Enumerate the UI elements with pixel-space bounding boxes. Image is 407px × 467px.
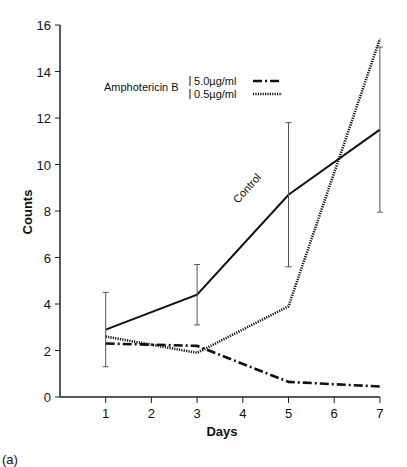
legend-title: Amphotericin B	[104, 81, 179, 93]
y-tick-label: 0	[44, 390, 51, 405]
x-tick-label: 4	[239, 406, 246, 421]
x-axis-label: Days	[206, 424, 237, 439]
x-tick-label: 7	[376, 406, 383, 421]
line-chart: 02468101214161234567 Days Counts (a) Amp…	[0, 0, 407, 467]
y-tick-label: 8	[44, 204, 51, 219]
y-axis-label: Counts	[20, 190, 35, 235]
y-tick-label: 16	[37, 18, 51, 33]
control-annotation: Control	[231, 171, 264, 205]
x-tick-label: 6	[331, 406, 338, 421]
x-tick-label: 1	[102, 406, 109, 421]
y-tick-label: 2	[44, 344, 51, 359]
y-tick-label: 6	[44, 251, 51, 266]
legend-item-5: 5.0µg/ml	[194, 75, 236, 87]
x-tick-label: 3	[193, 406, 200, 421]
series-line-1	[106, 344, 380, 387]
legend-item-05: 0.5µg/ml	[194, 88, 236, 100]
x-tick-label: 5	[285, 406, 292, 421]
y-tick-label: 12	[37, 111, 51, 126]
panel-label: (a)	[2, 452, 18, 467]
y-tick-label: 4	[44, 297, 51, 312]
y-tick-label: 10	[37, 158, 51, 173]
x-tick-label: 2	[148, 406, 155, 421]
y-tick-label: 14	[37, 65, 51, 80]
